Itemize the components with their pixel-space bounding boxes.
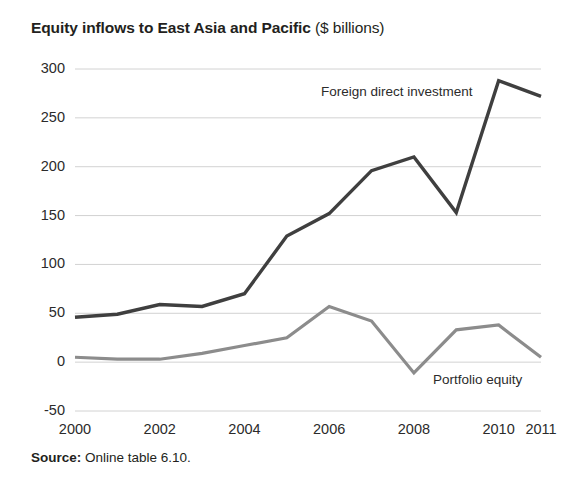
x-axis-tick-label: 2000 <box>59 421 91 437</box>
x-axis-tick-label: 2011 <box>525 421 556 437</box>
line-chart-svg <box>0 0 576 479</box>
plot-area: 300250200150100500-50 200020022004200620… <box>0 0 576 479</box>
x-axis-tick-label: 2006 <box>313 421 345 437</box>
series-label-portfolio-equity: Portfolio equity <box>433 372 522 387</box>
y-axis-tick-label: 250 <box>23 109 65 125</box>
series-label-foreign-direct-investment: Foreign direct investment <box>321 84 473 99</box>
y-axis-tick-label: 50 <box>23 304 65 320</box>
x-axis-tick-label: 2004 <box>228 421 260 437</box>
y-axis-tick-label: 0 <box>23 353 65 369</box>
series-lines <box>75 81 541 373</box>
x-axis-tick-label: 2002 <box>144 421 176 437</box>
series-line-portfolio-equity <box>75 306 541 372</box>
y-axis-tick-label: 200 <box>23 158 65 174</box>
y-axis-tick-label: -50 <box>23 402 65 418</box>
source-label: Source: <box>31 450 81 465</box>
x-axis-tick-label: 2010 <box>482 421 514 437</box>
source-text: Online table 6.10. <box>85 450 191 465</box>
source-note: Source: Online table 6.10. <box>31 450 191 465</box>
x-axis-tick-label: 2008 <box>398 421 430 437</box>
chart-figure: Equity inflows to East Asia and Pacific … <box>0 0 576 479</box>
series-line-foreign-direct-investment <box>75 81 541 317</box>
y-axis-tick-label: 100 <box>23 255 65 271</box>
y-axis-tick-label: 300 <box>23 60 65 76</box>
y-axis-tick-label: 150 <box>23 207 65 223</box>
